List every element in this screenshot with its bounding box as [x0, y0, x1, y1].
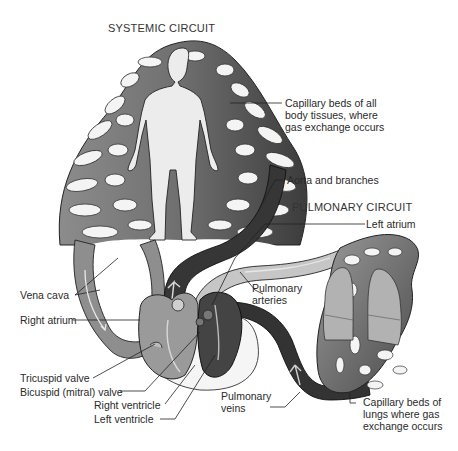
label-right-atrium: Right atrium — [20, 314, 77, 326]
label-tricuspid-valve: Tricuspid valve — [20, 372, 90, 384]
heart — [139, 292, 242, 379]
pulmonary-circuit-title: PULMONARY CIRCUIT — [292, 201, 412, 213]
label-left-atrium: Left atrium — [366, 218, 416, 230]
label-left-ventricle: Left ventricle — [94, 413, 154, 425]
label-capillary-lungs-line1: Capillary beds of — [363, 396, 442, 408]
label-pulmonary-veins-line1: Pulmonary — [221, 390, 271, 402]
label-capillary-body-line2: body tissues, where — [285, 109, 384, 121]
label-pulmonary-veins: Pulmonary veins — [221, 390, 271, 414]
label-pulmonary-veins-line2: veins — [221, 402, 271, 414]
label-capillary-body-line3: gas exchange occurs — [285, 121, 384, 133]
label-capillary-body-line1: Capillary beds of all — [285, 97, 384, 109]
label-right-ventricle: Right ventricle — [94, 399, 161, 411]
label-aorta: Aorta and branches — [287, 174, 379, 186]
label-capillary-lungs-line2: lungs where gas — [363, 408, 442, 420]
label-capillary-body: Capillary beds of all body tissues, wher… — [285, 97, 384, 133]
label-pulmonary-arteries-line2: arteries — [252, 294, 302, 306]
label-pulmonary-arteries-line1: Pulmonary — [252, 282, 302, 294]
label-capillary-lungs-line3: exchange occurs — [363, 420, 442, 432]
label-capillary-lungs: Capillary beds of lungs where gas exchan… — [363, 396, 442, 432]
label-vena-cava: Vena cava — [20, 289, 69, 301]
label-bicuspid-valve: Bicuspid (mitral) valve — [20, 386, 123, 398]
label-pulmonary-arteries: Pulmonary arteries — [252, 282, 302, 306]
systemic-circuit-title: SYSTEMIC CIRCUIT — [108, 22, 215, 34]
